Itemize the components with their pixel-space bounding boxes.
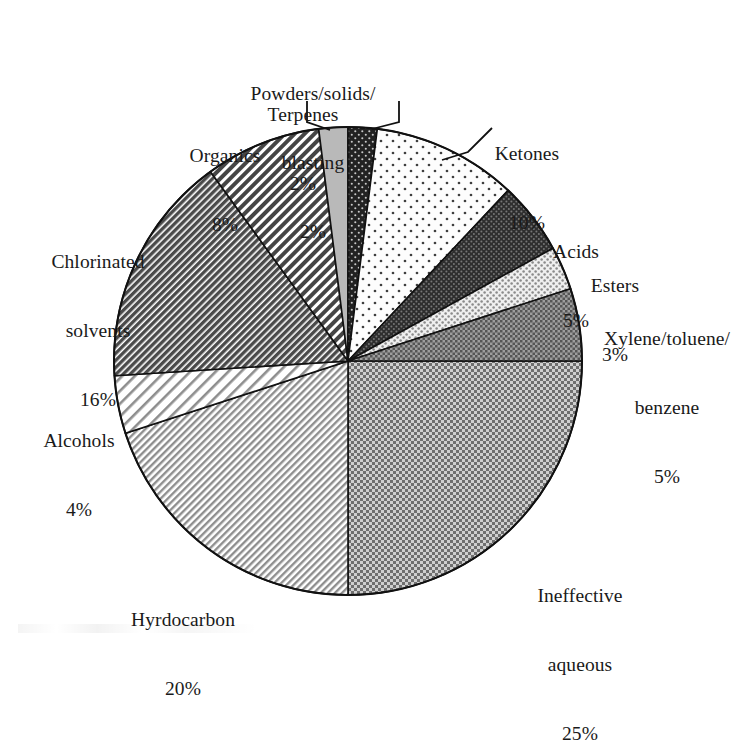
slice-percent-xylene: 5% (583, 465, 751, 488)
slice-label-ineffective-aqueous: Ineffective aqueous 25% (504, 538, 656, 744)
page-edge-artifact (18, 624, 258, 633)
slice-label-ineffective-line2: aqueous (504, 653, 656, 676)
slice-percent-hyrdocarbon: 20% (95, 677, 271, 700)
slice-percent-ketones: 10% (466, 211, 588, 234)
slice-label-ketones-line1: Ketones (466, 142, 588, 165)
slice-label-ineffective-line1: Ineffective (504, 584, 656, 607)
slice-label-chlorinated-line2: solvents (22, 319, 174, 342)
slice-label-ketones: Ketones 10% (466, 96, 588, 280)
slice-label-alcohols: Alcohols 4% (20, 383, 138, 567)
slice-label-organics: Organics 8% (163, 98, 287, 282)
slice-percent-alcohols: 4% (20, 498, 138, 521)
slice-percent-ineffective: 25% (504, 722, 656, 744)
slice-label-organics-line1: Organics (163, 144, 287, 167)
slice-label-alcohols-line1: Alcohols (20, 429, 138, 452)
slice-percent-organics: 8% (163, 213, 287, 236)
slice-label-hyrdocarbon: Hyrdocarbon 20% (95, 562, 271, 744)
slice-label-chlorinated-line1: Chlorinated (22, 250, 174, 273)
slice-percent-acids: 5% (526, 309, 626, 332)
